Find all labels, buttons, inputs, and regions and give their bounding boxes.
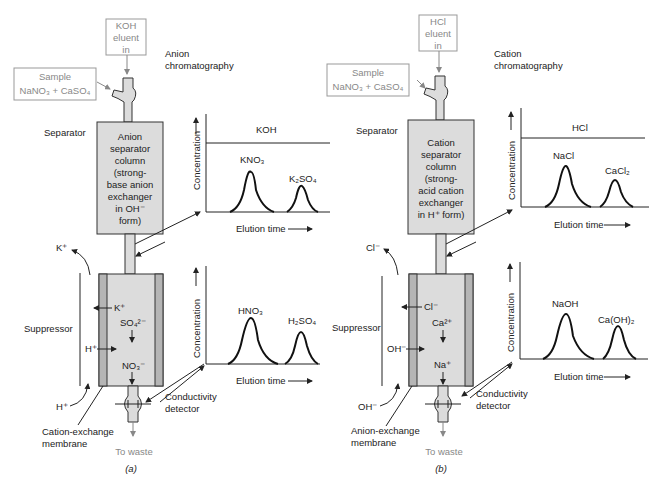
- panel-a: KOH eluent in Anion chromatography Sampl…: [14, 19, 330, 474]
- svg-text:OH⁻: OH⁻: [387, 343, 406, 354]
- svg-text:separator: separator: [110, 143, 150, 154]
- svg-text:NaNO₃ + CaSO₄: NaNO₃ + CaSO₄: [20, 85, 91, 96]
- membrane-label: Cation-exchange: [42, 426, 114, 437]
- svg-text:in: in: [434, 40, 441, 51]
- svg-text:Na⁺: Na⁺: [434, 359, 451, 370]
- svg-text:in: in: [122, 44, 129, 55]
- svg-text:HNO₃: HNO₃: [238, 305, 263, 316]
- membrane-label: Anion-exchange: [351, 425, 420, 436]
- eluent-label: KOH: [116, 20, 137, 31]
- svg-text:membrane: membrane: [351, 437, 396, 448]
- svg-text:NaOH: NaOH: [552, 298, 579, 309]
- injector: [112, 78, 136, 122]
- svg-text:H₂SO₄: H₂SO₄: [288, 315, 316, 326]
- detector-label: Conductivity: [165, 391, 217, 402]
- membrane-left: [409, 274, 417, 386]
- svg-text:separator: separator: [421, 149, 461, 160]
- sample-box: Sample NaNO₃ + CaSO₄: [327, 64, 409, 96]
- svg-text:KOH: KOH: [256, 124, 277, 135]
- svg-text:in OH⁻: in OH⁻: [115, 203, 144, 214]
- separator-label: Separator: [44, 127, 86, 138]
- svg-text:eluent: eluent: [425, 28, 451, 39]
- membrane-left: [99, 274, 107, 386]
- waste-label: To waste: [425, 446, 463, 457]
- svg-text:Sample: Sample: [352, 67, 384, 78]
- eluent-box: HCl eluent in: [419, 15, 457, 51]
- svg-text:Concentration: Concentration: [191, 131, 202, 190]
- svg-text:chromatography: chromatography: [494, 60, 563, 71]
- svg-text:NaNO₃ + CaSO₄: NaNO₃ + CaSO₄: [333, 81, 404, 92]
- panel-title: Anion: [165, 48, 189, 59]
- svg-text:HCl: HCl: [572, 122, 588, 133]
- svg-text:acid cation: acid cation: [418, 185, 463, 196]
- svg-text:(strong-: (strong-: [114, 167, 147, 178]
- svg-text:HCl: HCl: [430, 16, 446, 27]
- chart-b-top: HCl NaCl CaCl₂ Concentration Elution tim…: [506, 108, 649, 230]
- svg-text:form): form): [119, 215, 141, 226]
- svg-text:NO₃⁻: NO₃⁻: [122, 360, 145, 371]
- column-text: Cation separator column (strong- acid ca…: [418, 137, 465, 220]
- svg-text:Cl⁻: Cl⁻: [424, 301, 438, 312]
- svg-text:Concentration: Concentration: [505, 293, 516, 352]
- sample-box: Sample NaNO₃ + CaSO₄: [14, 68, 96, 100]
- svg-text:base anion: base anion: [107, 179, 153, 190]
- svg-text:KNO₃: KNO₃: [240, 154, 265, 165]
- panel-caption: (b): [435, 463, 447, 474]
- svg-text:(strong-: (strong-: [425, 173, 458, 184]
- svg-text:NaCl: NaCl: [553, 150, 574, 161]
- svg-text:detector: detector: [476, 400, 510, 411]
- membrane-right: [465, 274, 473, 386]
- svg-text:Concentration: Concentration: [191, 299, 202, 358]
- panel-title: Cation: [494, 48, 521, 59]
- chart-a-bottom: HNO₃ H₂SO₄ Concentration Elution time: [191, 266, 320, 386]
- svg-text:K₂SO₄: K₂SO₄: [289, 173, 317, 184]
- svg-text:exchanger: exchanger: [108, 191, 152, 202]
- svg-text:eluent: eluent: [113, 32, 139, 43]
- svg-text:H⁺: H⁺: [56, 401, 68, 412]
- svg-text:Elution time: Elution time: [236, 375, 286, 386]
- separator-label: Separator: [356, 125, 398, 136]
- suppressor-label: Suppressor: [24, 323, 73, 334]
- svg-text:Cation: Cation: [427, 137, 454, 148]
- svg-text:Cl⁻: Cl⁻: [366, 242, 380, 253]
- svg-text:Elution time: Elution time: [554, 371, 604, 382]
- svg-text:CaCl₂: CaCl₂: [605, 165, 630, 176]
- svg-text:OH⁻: OH⁻: [358, 401, 377, 412]
- svg-text:detector: detector: [165, 403, 199, 414]
- svg-text:K⁺: K⁺: [56, 242, 67, 253]
- svg-text:Elution time: Elution time: [236, 223, 286, 234]
- membrane-right: [155, 274, 163, 386]
- svg-text:in H⁺ form): in H⁺ form): [418, 209, 465, 220]
- panel-caption: (a): [125, 463, 137, 474]
- svg-text:SO₄²⁻: SO₄²⁻: [120, 317, 146, 328]
- svg-text:H⁺: H⁺: [85, 343, 97, 354]
- svg-text:membrane: membrane: [42, 438, 87, 449]
- chart-b-bottom: NaOH Ca(OH)₂ Concentration Elution time: [505, 262, 648, 382]
- eluent-box: KOH eluent in: [106, 19, 146, 55]
- svg-text:column: column: [426, 161, 457, 172]
- injector: [424, 76, 448, 120]
- svg-text:Anion: Anion: [118, 131, 142, 142]
- chart-a-top: KOH KNO₃ K₂SO₄ Concentration Elution tim…: [191, 114, 330, 234]
- suppressor-label: Suppressor: [332, 322, 381, 333]
- svg-text:Ca(OH)₂: Ca(OH)₂: [598, 314, 635, 325]
- svg-text:Sample: Sample: [39, 71, 71, 82]
- svg-text:chromatography: chromatography: [165, 60, 234, 71]
- ion-chromatography-diagram: KOH eluent in Anion chromatography Sampl…: [0, 0, 663, 483]
- svg-text:Ca²⁺: Ca²⁺: [432, 317, 452, 328]
- svg-text:exchanger: exchanger: [419, 197, 463, 208]
- svg-text:column: column: [115, 155, 146, 166]
- svg-text:Concentration: Concentration: [506, 141, 517, 200]
- waste-label: To waste: [115, 446, 153, 457]
- svg-text:K⁺: K⁺: [114, 302, 125, 313]
- svg-text:Elution time: Elution time: [554, 219, 604, 230]
- panel-b: HCl eluent in Cation chromatography Samp…: [327, 15, 649, 474]
- detector-label: Conductivity: [476, 388, 528, 399]
